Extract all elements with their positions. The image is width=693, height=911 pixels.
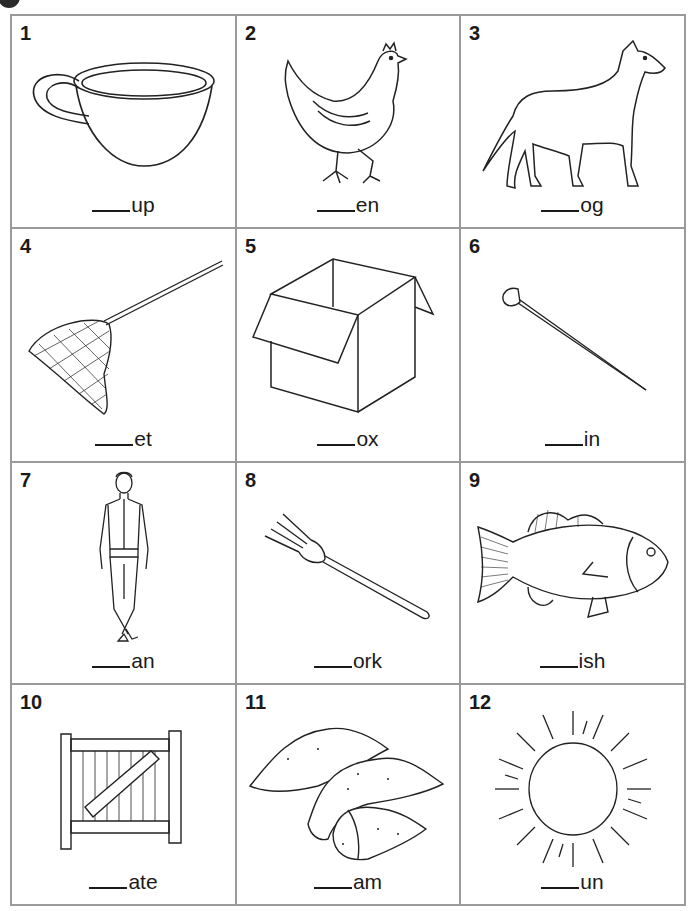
worksheet-item-12: 12 bbox=[461, 685, 684, 904]
pin-icon bbox=[461, 257, 684, 421]
worksheet-item-11: 11 am bbox=[237, 685, 461, 904]
sun-icon bbox=[461, 713, 684, 864]
answer-blank[interactable] bbox=[540, 665, 578, 668]
net-icon bbox=[12, 257, 235, 421]
word-label: am bbox=[237, 870, 459, 894]
worksheet-item-2: 2 en bbox=[237, 16, 461, 229]
answer-blank[interactable] bbox=[92, 209, 130, 212]
item-number: 2 bbox=[245, 22, 256, 45]
answer-blank[interactable] bbox=[314, 886, 352, 889]
item-number: 4 bbox=[20, 235, 31, 258]
fish-icon bbox=[461, 491, 684, 643]
answer-blank[interactable] bbox=[317, 209, 355, 212]
word-label: in bbox=[461, 427, 684, 451]
answer-blank[interactable] bbox=[545, 443, 583, 446]
word-label: ork bbox=[237, 649, 459, 673]
word-label: og bbox=[461, 193, 684, 217]
answer-blank[interactable] bbox=[317, 443, 355, 446]
word-label: ate bbox=[12, 870, 235, 894]
worksheet-item-8: 8 ork bbox=[237, 463, 461, 685]
yam-icon bbox=[237, 713, 459, 864]
item-number: 6 bbox=[469, 235, 480, 258]
dog-icon bbox=[461, 44, 684, 187]
worksheet-item-6: 6 in bbox=[461, 229, 684, 463]
word-label: et bbox=[12, 427, 235, 451]
word-label: ish bbox=[461, 649, 684, 673]
item-number: 10 bbox=[20, 691, 42, 714]
item-number: 1 bbox=[20, 22, 31, 45]
item-number: 5 bbox=[245, 235, 256, 258]
word-label: en bbox=[237, 193, 459, 217]
word-label: up bbox=[12, 193, 235, 217]
answer-blank[interactable] bbox=[92, 665, 130, 668]
word-label: un bbox=[461, 870, 684, 894]
answer-blank[interactable] bbox=[95, 443, 133, 446]
item-number: 12 bbox=[469, 691, 491, 714]
worksheet-item-9: 9 ish bbox=[461, 463, 684, 685]
worksheet-grid: 1 up 2 en bbox=[10, 14, 686, 906]
answer-blank[interactable] bbox=[314, 665, 352, 668]
word-label: ox bbox=[237, 427, 459, 451]
hen-icon bbox=[237, 44, 459, 187]
item-number: 11 bbox=[245, 691, 266, 714]
gate-icon bbox=[12, 713, 235, 864]
word-label: an bbox=[12, 649, 235, 673]
worksheet-item-3: 3 og bbox=[461, 16, 684, 229]
section-badge bbox=[0, 0, 20, 8]
cup-icon bbox=[12, 44, 235, 187]
worksheet-item-4: 4 et bbox=[12, 229, 237, 463]
man-icon bbox=[12, 471, 235, 647]
answer-blank[interactable] bbox=[89, 886, 127, 889]
item-number: 8 bbox=[245, 469, 256, 492]
answer-blank[interactable] bbox=[541, 886, 579, 889]
worksheet-item-7: 7 an bbox=[12, 463, 237, 685]
fork-icon bbox=[237, 491, 459, 643]
worksheet-item-5: 5 ox bbox=[237, 229, 461, 463]
worksheet-item-1: 1 up bbox=[12, 16, 237, 229]
item-number: 9 bbox=[469, 469, 480, 492]
box-icon bbox=[237, 257, 459, 421]
worksheet-item-10: 10 ate bbox=[12, 685, 237, 904]
answer-blank[interactable] bbox=[541, 209, 579, 212]
